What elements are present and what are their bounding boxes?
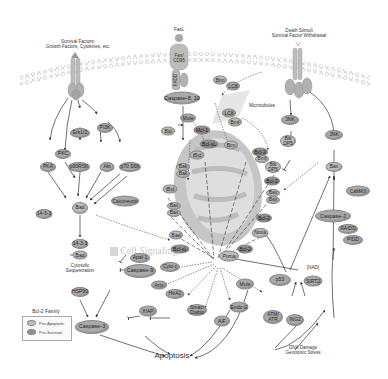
- fadd-label: FADD: [173, 74, 178, 86]
- node-ing2: ING2: [286, 314, 304, 326]
- node-bax-d: Bax: [266, 196, 280, 204]
- node-bad: Bad: [72, 202, 88, 214]
- node-bad-mito: Bad: [169, 231, 183, 240]
- node-bid: Bid: [161, 127, 175, 136]
- legend: Pro-Apoptotic Pro-Survival: [22, 316, 72, 341]
- legend-title: Bcl-2 Family: [32, 308, 60, 314]
- node-smac-diablo: Smac/ Diablo: [187, 304, 207, 316]
- node-caspase-9: Caspase-9: [124, 264, 156, 278]
- cytosolic-sequestration-label: Cytosolic Sequestration: [66, 263, 94, 273]
- legend-item-pro-survival: Pro-Survival: [27, 329, 62, 335]
- node-14-3-3-a: 14-3-3: [36, 209, 53, 219]
- node-bax-right: Bax: [326, 162, 343, 172]
- node-caspase-8-10: Caspase-8, 10: [164, 92, 200, 105]
- node-bim-mid: Bim: [224, 141, 238, 150]
- node-hsp90: HSP90: [71, 287, 89, 297]
- dna-damage-label: DNA Damage Genotoxic Stress: [286, 345, 321, 355]
- node-bcl-2-c: Bcl-2: [237, 245, 253, 254]
- survival-receptor: [68, 52, 84, 100]
- node-bax-b: Bax: [167, 209, 181, 217]
- node-xiap: XIAP: [139, 306, 157, 317]
- node-lc8-mid: LC8: [222, 109, 236, 118]
- node-jnk-b: JNK: [325, 130, 343, 140]
- legend-swatch-pro-apoptotic: [27, 320, 36, 326]
- node-caspase-2: Caspase-2: [315, 210, 351, 223]
- node-pidd: PIDD: [343, 235, 363, 245]
- node-bcl-xl-low: Bcl-xL: [171, 245, 190, 254]
- node-bim-top: Bim: [213, 76, 227, 85]
- node-bmf-mid: Bmf: [228, 118, 242, 127]
- node-14-3-3-b: 14-3-3: [72, 239, 89, 249]
- node-bik-dp5-a: Bik DP5: [280, 135, 296, 147]
- node-htra2: HtrA2: [166, 289, 185, 299]
- node-bcl-xl-top: Bcl-xL: [200, 140, 219, 149]
- node-aif: AIF: [214, 316, 230, 327]
- node-raidd: RAIDD: [338, 224, 358, 234]
- legend-item-pro-apoptotic: Pro-Apoptotic: [27, 320, 64, 326]
- node-cyto-c: Cyto c: [160, 262, 180, 272]
- node-p53: p53: [269, 274, 291, 286]
- node-puma: Puma: [219, 251, 239, 262]
- node-bak-2: Bak: [176, 170, 190, 178]
- node-erk12: Erk1/2: [70, 128, 90, 138]
- node-lc8-top: LC8: [226, 82, 240, 91]
- node-arts: Arts: [151, 281, 167, 290]
- node-p90rsk: p90RSK: [68, 162, 90, 172]
- node-endo-g: Endo G: [230, 302, 249, 313]
- apoptosis-pathway-diagram: Survival Factors: Growth Factors, Cytoki…: [0, 0, 388, 379]
- node-bik-dp5-b: Bik DP5: [265, 161, 281, 173]
- node-pkc: PKC: [55, 149, 71, 159]
- microtubules-label: Microtubules: [249, 103, 275, 108]
- node-p70s6k: p70 S6K: [119, 162, 141, 172]
- apoptosis-label: Apoptosis: [154, 353, 189, 358]
- node-akt: Akt: [100, 162, 115, 172]
- node-apaf-1: Apaf-1: [130, 253, 150, 263]
- nad-label: [NAD]: [307, 265, 319, 270]
- legend-swatch-pro-survival: [27, 329, 36, 335]
- node-caspase-3: Caspase-3: [75, 320, 109, 334]
- node-noxa: Noxa: [252, 228, 269, 238]
- node-mule-low: Mule: [236, 279, 254, 290]
- node-camkii: CaMKII: [346, 186, 370, 197]
- node-mcl-1: Mcl-1: [194, 126, 211, 135]
- node-mule-top: Mule: [180, 114, 196, 123]
- node-bcl-2-b: Bcl-2: [256, 214, 272, 223]
- death-stimuli-label: Death Stimuli Survival Factor Withdrawal: [272, 28, 327, 38]
- node-pi3k: PI3K: [97, 123, 113, 133]
- fas-cd95-label: Fas/ CD95: [173, 53, 185, 63]
- node-tbid-a: tBid: [190, 151, 205, 160]
- node-calcineurin: Calcineurin: [111, 196, 139, 207]
- node-tbid-b: tBid: [163, 185, 178, 194]
- node-bad-sequestered: Bad: [73, 251, 88, 260]
- node-sirt2: SIRT2: [304, 276, 323, 287]
- node-pka: PKA: [40, 162, 56, 172]
- fasl-label: FasL: [174, 27, 184, 32]
- survival-factors-label: Survival Factors: Growth Factors, Cytoki…: [46, 39, 110, 49]
- node-atm-atr: ATM/ ATR: [263, 310, 283, 324]
- node-jnk-a: JNK: [281, 115, 299, 125]
- node-bcl-2-a: Bcl-2: [264, 177, 280, 186]
